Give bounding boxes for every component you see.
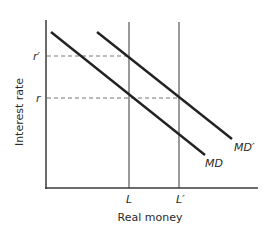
y-axis-title: Interest rate <box>13 78 26 146</box>
money-market-diagram: MD MD′ r′ r L L′ Real money Interest rat… <box>0 0 274 234</box>
x-axis-title: Real money <box>118 211 183 224</box>
md-prime-label: MD′ <box>234 141 255 154</box>
md-label: MD <box>205 157 223 170</box>
x-tick-L: L <box>126 193 132 206</box>
x-tick-L-prime: L′ <box>176 193 185 206</box>
y-tick-r: r <box>36 92 42 105</box>
y-tick-r-prime: r′ <box>33 50 41 63</box>
